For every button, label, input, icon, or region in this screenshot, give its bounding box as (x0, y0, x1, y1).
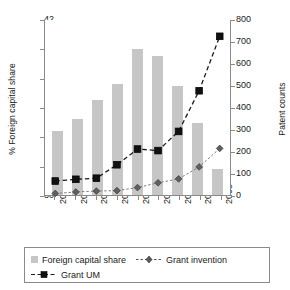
marker-grant-invention-2002 (93, 188, 100, 195)
legend-item-grant-invention: Grant invention (136, 255, 227, 265)
y-tickmark-right-400 (231, 108, 235, 109)
y-tickmark-left-34 (40, 137, 44, 138)
legend-item-foreign-capital-share: Foreign capital share (31, 255, 126, 265)
y-tick-right-700: 700 (236, 37, 266, 46)
y-tick-right-200: 200 (236, 147, 266, 156)
legend-row-1: Foreign capital share Grant invention (31, 252, 263, 267)
marker-grant-invention-2004 (134, 184, 141, 191)
marker-grant-um-2008 (216, 33, 223, 40)
y-tickmark-right-300 (231, 130, 235, 131)
y-tickmark-left-30 (40, 196, 44, 197)
x-tickmark-2007 (200, 196, 201, 200)
y-axis-left-title: % Foreign capital share (7, 49, 17, 169)
y-tick-right-400: 400 (236, 103, 266, 112)
y-tickmark-right-0 (231, 196, 235, 197)
y-tick-right-0: 0 (236, 191, 266, 200)
y-tick-right-100: 100 (236, 169, 266, 178)
y-tick-right-800: 800 (236, 15, 266, 24)
x-tickmark-2006 (179, 196, 180, 200)
x-tickmark-2008 (221, 196, 222, 200)
legend-label-foreign-capital-share: Foreign capital share (42, 255, 126, 265)
marker-grant-um-2000 (52, 178, 59, 185)
dashed-square-icon (31, 270, 57, 279)
chart-legend: Foreign capital share Grant invention (24, 247, 270, 283)
legend-label-grant-invention: Grant invention (166, 255, 227, 265)
marker-grant-um-2005 (155, 147, 162, 154)
chart-figure: % Foreign capital share Patent counts 30… (0, 0, 290, 290)
y-tickmark-right-800 (231, 20, 235, 21)
marker-grant-um-2006 (175, 128, 182, 135)
line-series-overlay (45, 20, 230, 194)
dotted-diamond-icon (136, 255, 162, 264)
marker-grant-um-2007 (196, 87, 203, 94)
y-tickmark-right-600 (231, 64, 235, 65)
x-tickmark-2005 (158, 196, 159, 200)
y-tickmark-left-32 (40, 167, 44, 168)
x-tickmark-2002 (96, 196, 97, 200)
y-tickmark-right-500 (231, 86, 235, 87)
plot-area (44, 20, 231, 196)
y-tickmark-right-100 (231, 174, 235, 175)
y-tick-right-300: 300 (236, 125, 266, 134)
y-tickmark-right-200 (231, 152, 235, 153)
y-tick-right-600: 600 (236, 59, 266, 68)
y-tickmark-left-42 (40, 20, 44, 21)
x-tickmark-2001 (75, 196, 76, 200)
marker-grant-invention-2006 (175, 176, 182, 183)
y-tick-right-500: 500 (236, 81, 266, 90)
y-tickmark-left-36 (40, 108, 44, 109)
marker-grant-um-2001 (72, 176, 79, 183)
marker-grant-invention-2008 (216, 145, 223, 152)
y-tickmark-left-38 (40, 79, 44, 80)
bar-swatch-icon (31, 256, 38, 263)
marker-grant-um-2003 (114, 161, 121, 168)
y-axis-right-title: Patent counts (277, 49, 287, 169)
x-tickmark-2000 (54, 196, 55, 200)
marker-grant-um-2002 (93, 175, 100, 182)
legend-row-2: Grant UM (31, 267, 263, 282)
legend-label-grant-um: Grant UM (61, 270, 100, 280)
marker-grant-invention-2003 (114, 187, 121, 194)
marker-grant-invention-2005 (155, 179, 162, 186)
marker-grant-um-2004 (134, 146, 141, 153)
y-tickmark-right-700 (231, 42, 235, 43)
x-tickmark-2004 (138, 196, 139, 200)
legend-item-grant-um: Grant UM (31, 270, 100, 280)
y-tickmark-left-40 (40, 49, 44, 50)
x-tickmark-2003 (117, 196, 118, 200)
line-grant-um (55, 36, 219, 181)
